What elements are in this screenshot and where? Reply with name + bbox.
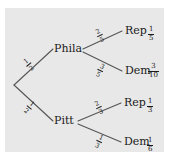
fraction-numerator: 1: [147, 137, 153, 144]
leaf-label-dem-top: Dem: [125, 65, 151, 76]
node-label-pitt: Pitt: [54, 115, 74, 126]
fraction-denominator: 6: [147, 146, 153, 153]
fraction-denominator: 10: [148, 72, 159, 79]
leaf-label-rep-top: Rep: [125, 25, 147, 36]
outcome-fraction-pitt-rep: 1 3: [147, 98, 153, 115]
fraction-numerator: 1: [148, 26, 154, 33]
fraction-numerator: 1: [147, 98, 153, 105]
fraction-denominator: 5: [148, 35, 154, 42]
node-label-phila: Phila: [54, 43, 82, 54]
outcome-fraction-pitt-dem: 1 6: [147, 137, 153, 154]
leaf-label-rep-bottom: Rep: [124, 97, 146, 108]
probability-tree-figure: Phila Pitt Rep Dem Rep Dem 1 2 1 2 2 5 3…: [5, 8, 164, 152]
fraction-denominator: 3: [147, 107, 153, 114]
leaf-label-dem-bottom: Dem: [124, 136, 150, 147]
outcome-fraction-phila-dem: 3 10: [148, 63, 159, 80]
outcome-fraction-phila-rep: 1 5: [148, 26, 154, 43]
fraction-numerator: 3: [148, 63, 159, 70]
